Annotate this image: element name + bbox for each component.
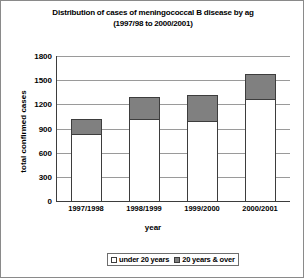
y-tick-label: 900 <box>22 124 52 133</box>
x-axis-tick-labels: 1997/1998 1998/1999 1999/2000 2000/2001 <box>57 204 289 213</box>
chart-title: Distribution of cases of meningococcal B… <box>1 7 304 18</box>
x-tick-label: 1997/1998 <box>57 204 115 213</box>
bar-segment-20-and-over[interactable] <box>246 75 275 101</box>
chart-title-block: Distribution of cases of meningococcal B… <box>1 7 304 29</box>
bar-segment-under-20[interactable] <box>72 135 101 201</box>
bar-slot <box>231 56 289 201</box>
legend-label: 20 years & over <box>182 255 234 264</box>
gray-square-icon <box>174 257 180 263</box>
bar-slot <box>115 56 173 201</box>
x-axis-title: year <box>1 223 304 232</box>
stacked-bar[interactable] <box>129 97 160 201</box>
stacked-bar[interactable] <box>187 95 218 201</box>
chart-subtitle: (1997/98 to 2000/2001) <box>1 18 304 29</box>
stacked-bar[interactable] <box>71 119 102 201</box>
bar-slot <box>173 56 231 201</box>
y-tick-label: 1500 <box>22 76 52 85</box>
y-tick-label: 1200 <box>22 100 52 109</box>
chart-window: Distribution of cases of meningococcal B… <box>0 0 304 278</box>
legend-item-20-and-over: 20 years & over <box>174 255 234 264</box>
bar-segment-20-and-over[interactable] <box>72 120 101 135</box>
bar-segment-20-and-over[interactable] <box>188 96 217 122</box>
y-tick-label: 300 <box>22 172 52 181</box>
legend-item-under-20: under 20 years <box>111 255 169 264</box>
chart-legend: under 20 years 20 years & over <box>107 253 239 266</box>
x-tick-label: 2000/2001 <box>231 204 289 213</box>
x-tick-label: 1999/2000 <box>173 204 231 213</box>
bar-segment-20-and-over[interactable] <box>130 98 159 121</box>
bar-segment-under-20[interactable] <box>246 100 275 201</box>
white-square-icon <box>111 257 117 263</box>
y-axis-tick-labels: 1800 1500 1200 900 600 300 0 <box>20 56 52 201</box>
bar-slot <box>57 56 115 201</box>
bars-layer <box>57 56 289 201</box>
bar-segment-under-20[interactable] <box>130 120 159 201</box>
legend-label: under 20 years <box>119 255 169 264</box>
y-tick-label: 1800 <box>22 52 52 61</box>
y-tick-label: 0 <box>22 197 52 206</box>
y-tick-label: 600 <box>22 148 52 157</box>
x-tick-label: 1998/1999 <box>115 204 173 213</box>
bar-segment-under-20[interactable] <box>188 122 217 201</box>
stacked-bar[interactable] <box>245 74 276 201</box>
